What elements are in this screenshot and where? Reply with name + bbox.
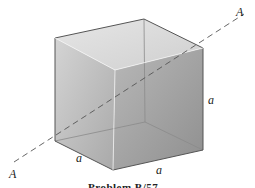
edge-label-vertical: a <box>208 94 214 106</box>
figure-caption: Problem B/57 <box>88 181 158 188</box>
edge-label-left: a <box>76 152 82 164</box>
axis-label-start: A <box>9 168 16 180</box>
axis-label-end: A <box>236 6 243 18</box>
cube-diagram <box>0 0 255 188</box>
edge-label-right: a <box>156 164 162 176</box>
